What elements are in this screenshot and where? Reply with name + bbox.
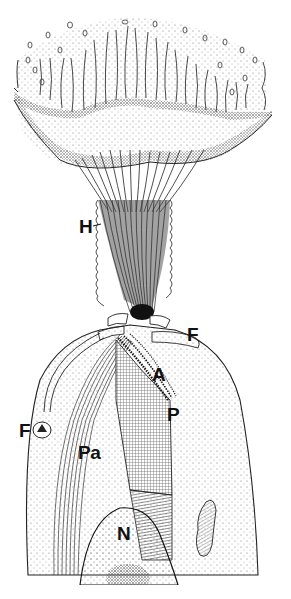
label-hair-bundle: H: [79, 217, 92, 236]
flagellum-base-left: [33, 422, 51, 438]
label-pelta: P: [167, 405, 179, 424]
label-flagellum-left: F: [19, 421, 30, 440]
label-axostyle: A: [152, 365, 165, 384]
tissue-cap: [14, 18, 272, 168]
label-parabasal: Pa: [78, 443, 100, 462]
cell-illustration: [0, 0, 291, 599]
label-nucleus: N: [117, 524, 130, 543]
hair-bundle: [96, 200, 172, 320]
label-flagellum-right: F: [187, 325, 198, 344]
